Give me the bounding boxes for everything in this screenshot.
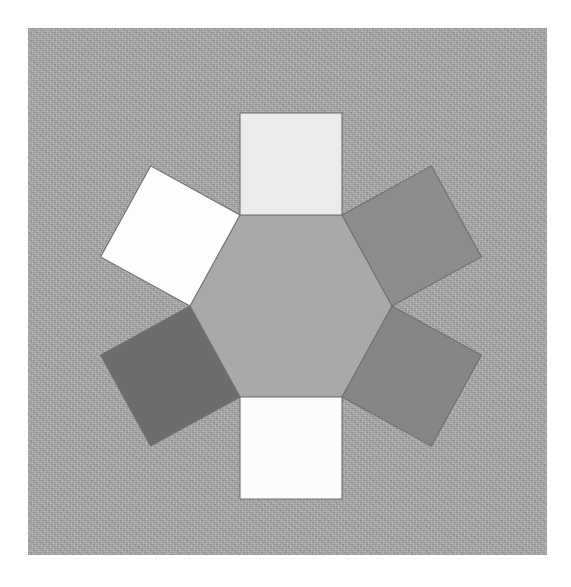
figure-panel — [28, 28, 547, 555]
hexagonal-net-figure — [28, 28, 547, 555]
square-bottom — [240, 397, 342, 499]
figure-page — [0, 0, 571, 587]
square-top — [240, 113, 342, 215]
net-canvas — [28, 28, 547, 555]
